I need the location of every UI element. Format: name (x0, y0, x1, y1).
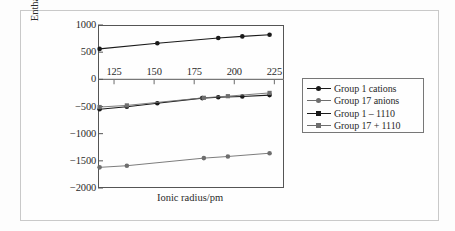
data-point (202, 96, 206, 100)
legend-marker-square (316, 123, 321, 128)
series-4 (98, 91, 272, 109)
data-point (202, 156, 207, 161)
data-point (267, 151, 272, 156)
y-tick-label: −500 (22, 102, 96, 112)
y-tick-label: 500 (22, 47, 96, 57)
data-point (98, 105, 102, 109)
x-tick-label: 200 (221, 67, 247, 77)
legend-marker-circle (316, 86, 321, 91)
y-tick-label: 0 (22, 74, 96, 84)
data-point (155, 41, 160, 46)
legend-item-3[interactable]: Group 1 – 1110 (307, 107, 419, 120)
x-tick-label: 175 (181, 67, 207, 77)
x-tick-label: 125 (101, 67, 127, 77)
legend-marker-square (316, 111, 321, 116)
legend-swatch (307, 96, 331, 106)
legend-swatch (307, 121, 331, 131)
y-tick-label: −1500 (22, 156, 96, 166)
legend-swatch (307, 83, 331, 93)
data-point (240, 34, 245, 39)
legend-label: Group 17 + 1110 (334, 120, 400, 131)
data-point (155, 101, 160, 106)
legend-item-1[interactable]: Group 1 cations (307, 82, 419, 95)
data-point (226, 94, 230, 98)
legend-item-2[interactable]: Group 17 anions (307, 95, 419, 108)
data-point (216, 36, 221, 41)
data-point (267, 91, 271, 95)
x-axis-title: Ionic radius/pm (120, 192, 260, 203)
data-point (125, 163, 130, 168)
data-point (226, 154, 231, 159)
legend-item-4[interactable]: Group 17 + 1110 (307, 120, 419, 133)
chart-series-layer (98, 25, 284, 188)
series-2 (97, 151, 272, 170)
y-axis-tick-labels: 10005000−500−1000−1500−2000 (20, 19, 96, 194)
series-3 (97, 32, 272, 51)
data-point (125, 103, 129, 107)
legend-label: Group 1 – 1110 (334, 108, 395, 119)
legend-label: Group 17 anions (334, 95, 399, 106)
data-point (97, 47, 102, 52)
plot-area (98, 25, 284, 188)
y-tick-label: −2000 (22, 183, 96, 193)
figure-canvas: Enthalpy of hydration/kJ mol⁻¹ 10005000−… (0, 0, 455, 231)
legend-swatch (307, 108, 331, 118)
series-1 (97, 93, 272, 112)
legend-label: Group 1 cations (334, 83, 396, 94)
y-tick-label: −1000 (22, 129, 96, 139)
y-tick-label: 1000 (22, 20, 96, 30)
chart-legend: Group 1 cationsGroup 17 anionsGroup 1 – … (302, 78, 424, 133)
legend-marker-circle (316, 98, 321, 103)
data-point (267, 32, 272, 37)
data-point (97, 165, 102, 170)
x-tick-label: 225 (261, 67, 287, 77)
x-tick-label: 150 (141, 67, 167, 77)
